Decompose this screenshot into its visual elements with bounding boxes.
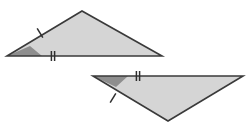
tick-stroke [110,93,116,102]
geometry-figure: Two congruent shaded triangles with matc… [0,0,251,129]
lower-triangle [93,71,243,121]
figure-canvas [0,0,251,129]
upper-triangle [7,11,162,61]
lower-triangle-single-tick-left-side [110,93,116,102]
